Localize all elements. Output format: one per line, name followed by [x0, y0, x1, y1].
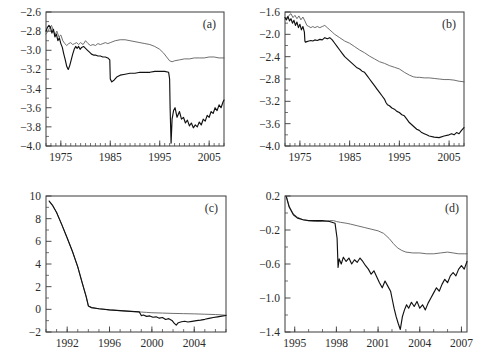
y-tick-label: −4.0 [259, 140, 280, 152]
series-line-upper [286, 197, 467, 254]
panel-tag: (d) [445, 201, 459, 215]
series-line-upper [285, 14, 464, 82]
x-tick-label: 2000 [140, 337, 163, 349]
y-tick-label: −4.0 [20, 140, 41, 152]
x-tick-label: 1975 [288, 151, 311, 163]
y-tick-label: −3.2 [20, 63, 41, 75]
y-tick-label: −1.6 [259, 6, 280, 18]
x-tick-label: 1985 [338, 151, 361, 163]
y-tick-label: −0.6 [259, 258, 280, 270]
y-tick-label: −3.2 [259, 95, 280, 107]
x-tick-label: 1992 [56, 337, 79, 349]
y-tick-label: −3.6 [259, 118, 280, 130]
y-tick-label: −3.8 [20, 121, 41, 133]
panel-tag: (b) [442, 17, 456, 31]
x-tick-label: 2004 [408, 337, 431, 349]
y-tick-label: 8 [35, 213, 41, 225]
panel-tag: (a) [203, 17, 216, 31]
y-tick-label: 2 [35, 281, 41, 293]
series-line-upper [49, 201, 226, 315]
x-tick-label: 1995 [148, 151, 171, 163]
x-tick-label: 1996 [98, 337, 121, 349]
y-tick-label: −2.8 [20, 25, 41, 37]
series-line-lower [285, 16, 464, 137]
panel-c: 19921996200020041086420−2(c) [0, 182, 241, 364]
y-tick-label: −1.4 [259, 326, 280, 338]
x-tick-label: 1975 [49, 151, 72, 163]
x-tick-label: 2005 [438, 151, 461, 163]
y-tick-label: 10 [30, 190, 42, 202]
y-tick-label: −2 [29, 326, 41, 338]
y-tick-label: 0 [35, 303, 41, 315]
figure-container: 1975198519952005−2.6−2.8−3.0−3.2−3.4−3.6… [0, 0, 481, 364]
y-tick-label: −2.6 [20, 6, 41, 18]
series-line-lower [49, 201, 226, 325]
x-tick-label: 1985 [99, 151, 122, 163]
x-tick-label: 2005 [198, 151, 221, 163]
plot-frame [285, 196, 467, 332]
x-tick-label: 1995 [283, 337, 306, 349]
series-line-lower [286, 197, 467, 330]
y-tick-label: −2.0 [259, 28, 280, 40]
panel-d: 199519982001200420070.2−0.2−0.6−1.0−1.4(… [241, 182, 481, 364]
y-tick-label: −0.2 [259, 224, 280, 236]
x-tick-label: 2007 [450, 337, 473, 349]
y-tick-label: 0.2 [266, 190, 281, 202]
x-tick-label: 2004 [183, 337, 206, 349]
y-tick-label: −1.0 [259, 292, 280, 304]
panel-b: 1975198519952005−1.6−2.0−2.4−2.8−3.2−3.6… [241, 0, 481, 182]
y-tick-label: −2.4 [259, 51, 280, 63]
x-tick-label: 1998 [325, 337, 348, 349]
x-tick-label: 2001 [367, 337, 390, 349]
series-line-lower [46, 25, 224, 143]
panel-a: 1975198519952005−2.6−2.8−3.0−3.2−3.4−3.6… [0, 0, 241, 182]
y-tick-label: −3.6 [20, 102, 41, 114]
panel-tag: (c) [205, 201, 218, 215]
x-tick-label: 1995 [388, 151, 411, 163]
y-tick-label: −3.4 [20, 83, 41, 95]
y-tick-label: −2.8 [259, 73, 280, 85]
y-tick-label: −3.0 [20, 44, 41, 56]
y-tick-label: 4 [35, 258, 41, 270]
y-tick-label: 6 [35, 235, 41, 247]
